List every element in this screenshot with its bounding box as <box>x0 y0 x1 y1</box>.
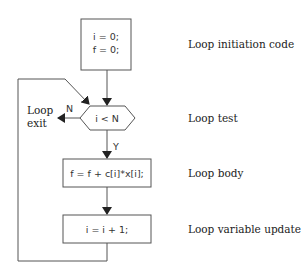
update-node: i = i + 1; <box>63 215 151 243</box>
update-statement: i = i + 1; <box>86 224 129 235</box>
annotation-init: Loop initiation code <box>188 38 294 50</box>
yes-label: Y <box>112 141 119 152</box>
annotation-body: Loop body <box>188 167 243 179</box>
body-statement: f = f + c[i]*x[i]; <box>70 168 144 179</box>
exit-label-line-1: Loop <box>27 104 54 116</box>
init-line-2: f = 0; <box>93 44 120 55</box>
annotation-test: Loop test <box>188 112 238 124</box>
init-line-1: i = 0; <box>93 31 119 42</box>
test-condition: i < N <box>95 113 119 124</box>
no-label: N <box>66 103 73 114</box>
test-node: i < N <box>80 106 135 130</box>
loop-flowchart: i = 0; f = 0; i < N N Loop exit Y f = f … <box>0 0 307 272</box>
exit-label-line-2: exit <box>27 117 47 129</box>
annotation-update: Loop variable update <box>188 223 301 235</box>
init-node: i = 0; f = 0; <box>81 19 131 70</box>
body-node: f = f + c[i]*x[i]; <box>63 159 151 187</box>
